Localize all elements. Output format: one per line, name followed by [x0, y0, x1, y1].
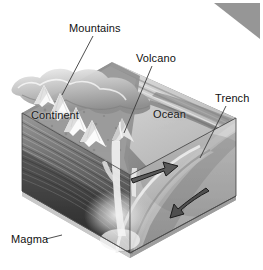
label-volcano: Volcano	[136, 52, 176, 64]
label-magma: Magma	[11, 233, 48, 245]
label-mountains: Mountains	[69, 22, 121, 34]
subduction-block-diagram	[0, 0, 263, 270]
label-continent: Continent	[31, 109, 79, 121]
leader-magma	[46, 235, 62, 239]
figure-canvas: Mountains Volcano Trench Continent Ocean…	[0, 0, 263, 270]
label-ocean: Ocean	[153, 108, 186, 120]
triangle-marker	[214, 3, 260, 39]
label-trench: Trench	[215, 92, 249, 104]
